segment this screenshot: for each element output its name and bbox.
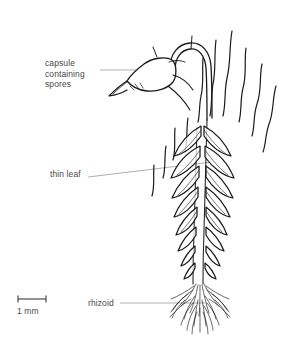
label-capsule-line-2: containing	[45, 69, 85, 79]
diagram-background	[0, 0, 287, 343]
label-capsule: capsulecontainingspores	[45, 58, 85, 90]
label-capsule-line-1: capsule	[45, 58, 75, 68]
label-rhizoid: rhizoid	[88, 298, 114, 309]
scale-bar-label: 1 mm	[17, 306, 39, 317]
label-capsule-line-3: spores	[45, 79, 71, 89]
label-thin-leaf: thin leaf	[50, 169, 81, 180]
moss-diagram	[0, 0, 287, 343]
